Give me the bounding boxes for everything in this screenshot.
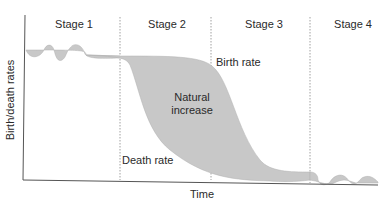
- stage1-fluctuation-area: [26, 45, 120, 61]
- natural-increase-label: Natural increase: [171, 91, 213, 117]
- natural-increase-line1: Natural: [171, 91, 213, 104]
- x-axis-label: Time: [190, 189, 214, 200]
- stage-2-label: Stage 2: [148, 19, 186, 30]
- y-axis: [23, 15, 25, 180]
- natural-increase-area: [86, 55, 310, 182]
- stage-3-label: Stage 3: [245, 19, 283, 30]
- birth-rate-label: Birth rate: [216, 57, 261, 68]
- death-rate-label: Death rate: [122, 155, 173, 166]
- stage-1-label: Stage 1: [55, 19, 93, 30]
- natural-increase-line2: increase: [171, 104, 213, 117]
- stage4-fluctuation-area: [310, 172, 378, 185]
- stage-4-label: Stage 4: [334, 19, 372, 30]
- x-axis: [23, 180, 378, 185]
- y-axis-label: Birth/death rates: [5, 60, 16, 141]
